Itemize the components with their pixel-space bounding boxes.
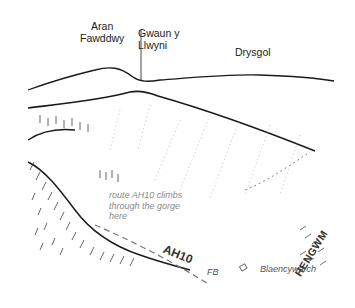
peak-label-line: Gwaun y — [138, 27, 179, 39]
peak-label-line: Llwyni — [138, 39, 179, 51]
ridge-lower — [28, 91, 315, 151]
peak-label-line: Aran — [80, 20, 124, 32]
gorge-edge — [28, 129, 75, 140]
route-annotation: route AH10 climbs through the gorge here — [109, 190, 182, 222]
annotation-line: here — [109, 211, 182, 222]
peak-label-drysgol: Drysgol — [235, 46, 271, 58]
annotation-line: route AH10 climbs — [109, 190, 182, 201]
settlement-label: Blaencywarch — [260, 263, 316, 275]
hillside-stipple — [110, 105, 300, 198]
footbridge-label: FB — [207, 266, 219, 278]
ridge-skyline — [28, 68, 334, 90]
annotation-line: through the gorge — [109, 201, 182, 212]
peak-label-aran-fawddwy: Aran Fawddwy — [80, 20, 124, 44]
hengwm-valley-line — [245, 152, 310, 190]
peak-label-line: Drysgol — [235, 46, 271, 58]
peak-label-gwaun-y-llwyni: Gwaun y Llwyni — [138, 27, 179, 51]
peak-label-line: Fawddwy — [80, 32, 124, 44]
